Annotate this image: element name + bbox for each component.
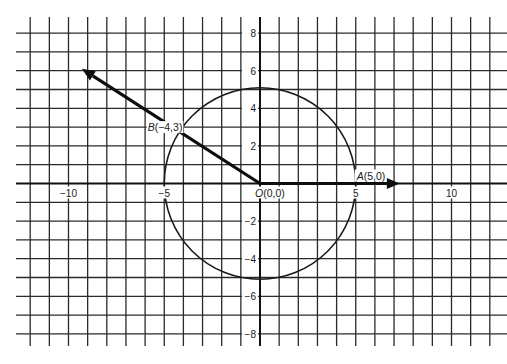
- y-tick-label: −2: [245, 216, 257, 227]
- point-a-label: A(5,0): [356, 170, 386, 182]
- y-tick-label: −6: [245, 291, 257, 302]
- x-tick-label: −10: [60, 188, 77, 199]
- origin-label: O(0,0): [255, 187, 285, 199]
- y-tick-label: 8: [250, 28, 256, 39]
- x-tick-label: 5: [353, 188, 359, 199]
- grid: [16, 17, 507, 346]
- x-tick-label: −5: [159, 188, 171, 199]
- coordinate-plane: −10−55108642−2−4−6−8 B(−4,3) O(0,0) A(5,…: [0, 0, 507, 364]
- y-tick-label: −4: [245, 254, 257, 265]
- y-tick-label: 6: [250, 66, 256, 77]
- point-b-label: B(−4,3): [148, 121, 183, 133]
- y-tick-label: 2: [250, 141, 256, 152]
- arrowhead-icon: [387, 178, 400, 189]
- x-tick-label: 10: [446, 188, 458, 199]
- y-tick-label: 4: [250, 103, 256, 114]
- y-tick-label: −8: [245, 329, 257, 340]
